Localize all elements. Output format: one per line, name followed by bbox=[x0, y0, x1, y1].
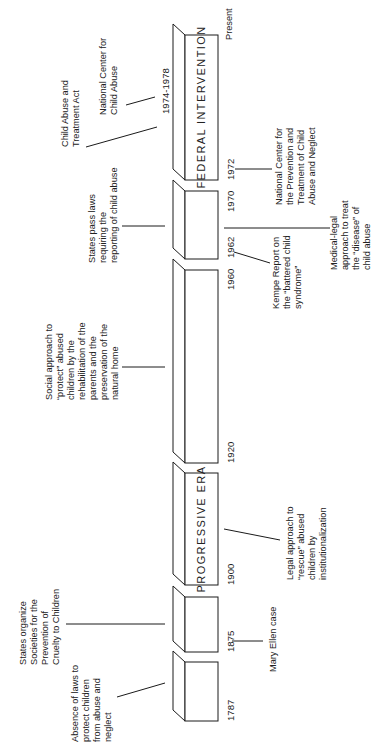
year-1787: 1787 bbox=[225, 700, 236, 721]
svg-text:requiring the: requiring the bbox=[98, 212, 108, 263]
svg-text:Kempe Report on: Kempe Report on bbox=[271, 237, 281, 309]
svg-text:children by the: children by the bbox=[66, 340, 76, 400]
svg-text:States pass laws: States pass laws bbox=[87, 194, 97, 263]
svg-text:rehabilitation of the: rehabilitation of the bbox=[77, 322, 87, 400]
svg-text:the “disease” of: the “disease” of bbox=[351, 206, 361, 270]
svg-text:Child Abuse and: Child Abuse and bbox=[60, 80, 70, 147]
year-1900: 1900 bbox=[225, 564, 236, 585]
svg-text:Medical-legal: Medical-legal bbox=[329, 216, 339, 270]
leader-nc-child-abuse bbox=[126, 97, 155, 105]
svg-text:“protect” abused: “protect” abused bbox=[55, 333, 65, 400]
svg-text:National Center for: National Center for bbox=[274, 128, 284, 205]
svg-text:child abuse: child abuse bbox=[362, 224, 372, 270]
year-1960: 1960 bbox=[225, 269, 236, 290]
svg-text:natural home: natural home bbox=[110, 346, 120, 400]
svg-text:Abuse and Neglect: Abuse and Neglect bbox=[307, 127, 317, 205]
era-label-progressive: PROGRESSIVE ERA bbox=[195, 466, 207, 593]
svg-text:from abuse and: from abuse and bbox=[92, 678, 102, 742]
year-1920: 1920 bbox=[225, 442, 236, 463]
svg-text:Prevention of: Prevention of bbox=[40, 610, 50, 665]
svg-text:Absence of laws to: Absence of laws to bbox=[70, 665, 80, 742]
svg-text:protect children: protect children bbox=[81, 679, 91, 742]
year-present: Present bbox=[224, 8, 234, 40]
svg-text:National Center for: National Center for bbox=[98, 38, 108, 115]
svg-text:States organize: States organize bbox=[18, 601, 28, 665]
segment-1920-1960 bbox=[173, 259, 218, 463]
svg-text:Mary Ellen case: Mary Ellen case bbox=[268, 607, 278, 672]
segment-1875-1900 bbox=[173, 586, 218, 652]
svg-text:Treatment of Child: Treatment of Child bbox=[296, 130, 306, 205]
year-1962: 1962 bbox=[225, 237, 236, 258]
leader-absence-laws bbox=[117, 683, 165, 697]
annotation-mary-ellen: Mary Ellen case bbox=[268, 607, 278, 672]
annotation-absence-laws: Absence of laws to protect children from… bbox=[70, 665, 113, 742]
svg-text:“rescue” abused: “rescue” abused bbox=[296, 514, 306, 580]
leader-kempe bbox=[234, 252, 270, 263]
year-1970: 1970 bbox=[225, 191, 236, 212]
svg-text:the “battered child: the “battered child bbox=[282, 235, 292, 309]
svg-text:the Prevention and: the Prevention and bbox=[285, 128, 295, 205]
svg-text:approach to treat: approach to treat bbox=[340, 200, 350, 270]
svg-text:Social approach to: Social approach to bbox=[44, 324, 54, 400]
svg-text:children by: children by bbox=[307, 535, 317, 580]
svg-text:preservation of the: preservation of the bbox=[99, 324, 109, 400]
svg-text:Child Abuse: Child Abuse bbox=[109, 66, 119, 115]
leader-cap-act bbox=[86, 127, 157, 147]
svg-text:Legal approach to: Legal approach to bbox=[285, 506, 295, 580]
leader-legal-approach bbox=[224, 529, 280, 540]
annotation-child-abuse-treatment-act: Child Abuse and Treatment Act bbox=[60, 80, 81, 147]
svg-text:Cruelty to Children: Cruelty to Children bbox=[51, 589, 61, 665]
svg-text:reporting of child abuse: reporting of child abuse bbox=[109, 167, 119, 263]
segment-1787-1875 bbox=[173, 651, 218, 721]
year-1974-1978: 1974-1978 bbox=[160, 68, 171, 114]
annotation-social-approach: Social approach to “protect” abused chil… bbox=[44, 322, 120, 400]
annotation-medical-legal: Medical-legal approach to treat the “dis… bbox=[329, 200, 372, 270]
annotation-legal-approach: Legal approach to “rescue” abused childr… bbox=[285, 506, 328, 580]
svg-text:Societies for the: Societies for the bbox=[29, 599, 39, 665]
svg-text:parents and the: parents and the bbox=[88, 336, 98, 400]
segment-1962-1970 bbox=[173, 180, 218, 259]
timeline-diagram: PROGRESSIVE ERA FEDERAL INTERVENTION 178… bbox=[0, 0, 380, 745]
annotation-states-pass-laws: States pass laws requiring the reporting… bbox=[87, 167, 119, 263]
svg-text:syndrome”: syndrome” bbox=[293, 266, 303, 309]
annotation-nc-prevention-treatment: National Center for the Prevention and T… bbox=[274, 127, 317, 205]
svg-text:institutionalization: institutionalization bbox=[318, 507, 328, 580]
year-1972: 1972 bbox=[225, 159, 236, 180]
annotation-kempe-report: Kempe Report on the “battered child synd… bbox=[271, 235, 303, 309]
annotation-nc-child-abuse: National Center for Child Abuse bbox=[98, 38, 119, 115]
svg-text:Treatment Act: Treatment Act bbox=[71, 90, 81, 147]
annotation-states-organize: States organize Societies for the Preven… bbox=[18, 589, 61, 665]
era-label-federal: FEDERAL INTERVENTION bbox=[195, 25, 207, 188]
svg-text:neglect: neglect bbox=[103, 712, 113, 742]
